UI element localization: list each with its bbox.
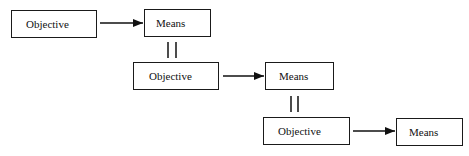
equals-connector-1 [168,42,176,58]
means-label-2: Means [279,70,308,82]
equals-connector-2 [291,96,298,112]
means-box-1: Means [144,9,211,37]
means-label-1: Means [156,17,185,29]
objective-label-1: Objective [26,18,69,30]
objective-box-2: Objective [133,62,219,90]
objective-label-3: Objective [278,125,321,137]
means-box-3: Means [396,118,463,146]
means-box-2: Means [265,62,334,90]
means-label-3: Means [409,126,438,138]
objective-box-1: Objective [11,10,97,38]
objective-box-3: Objective [263,117,350,145]
objective-label-2: Objective [149,70,192,82]
